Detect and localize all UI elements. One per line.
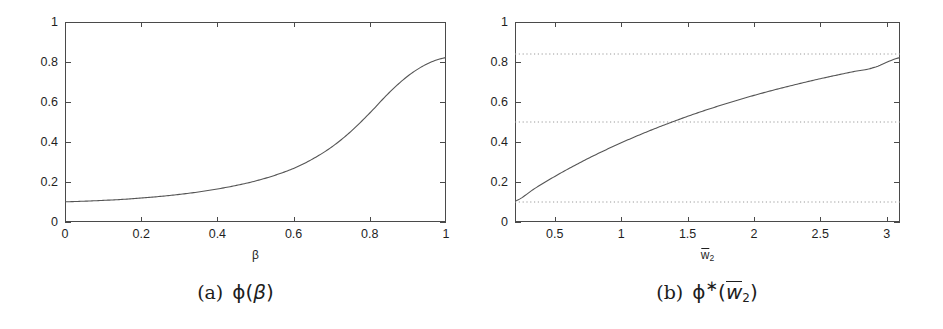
xtick-label-b-3: 2	[751, 227, 758, 241]
panel-a: 0 0.2 0.4 0.6 0.8 1 0 0.2 0.4 0.6 0.8 1 …	[0, 0, 471, 329]
ytick-b-2	[515, 142, 521, 143]
xtick-label-a-0: 0	[62, 227, 69, 241]
ytick-label-a-3: 0.6	[41, 95, 58, 109]
curve-phi-beta	[65, 58, 446, 202]
xtick-b-t3	[754, 22, 755, 27]
xtick-a-2	[217, 217, 218, 222]
xtick-label-a-3: 0.6	[285, 227, 302, 241]
ytick-a-4	[65, 62, 71, 63]
plot-area-b: 0 0.2 0.4 0.6 0.8 1 0.5 1 1.5 2 2.5 3	[515, 22, 900, 222]
xtick-b-0	[555, 217, 556, 222]
curve-phi-star	[515, 58, 900, 202]
curve-svg-a	[65, 22, 446, 222]
ytick-label-a-4: 0.8	[41, 55, 58, 69]
xtick-a-0	[65, 217, 66, 222]
ytick-label-b-4: 0.8	[491, 55, 508, 69]
ytick-label-a-1: 0.2	[41, 175, 58, 189]
ytick-b-0	[515, 222, 521, 223]
xtick-a-t2	[217, 22, 218, 27]
xtick-label-a-2: 0.4	[209, 227, 226, 241]
caption-a: (a)ϕ(β)	[0, 280, 471, 304]
ytick-a-r0	[440, 222, 446, 223]
ytick-label-b-1: 0.2	[491, 175, 508, 189]
xtick-b-t5	[887, 22, 888, 27]
ytick-b-r1	[894, 182, 900, 183]
ytick-a-2	[65, 142, 71, 143]
ytick-a-r2	[440, 142, 446, 143]
ytick-label-b-3: 0.6	[491, 95, 508, 109]
xtick-label-a-4: 0.8	[361, 227, 378, 241]
xtick-label-b-5: 3	[883, 227, 890, 241]
xtick-label-a-5: 1	[443, 227, 450, 241]
x-axis-title-b-base: w	[701, 248, 710, 261]
xtick-label-b-0: 0.5	[546, 227, 563, 241]
xtick-b-t1	[621, 22, 622, 27]
ytick-a-0	[65, 222, 71, 223]
xtick-a-3	[294, 217, 295, 222]
plot-area-a: 0 0.2 0.4 0.6 0.8 1 0 0.2 0.4 0.6 0.8 1 …	[65, 22, 446, 222]
panel-b: 0 0.2 0.4 0.6 0.8 1 0.5 1 1.5 2 2.5 3	[471, 0, 943, 329]
xtick-b-t0	[555, 22, 556, 27]
xtick-b-3	[754, 217, 755, 222]
figure-container: 0 0.2 0.4 0.6 0.8 1 0 0.2 0.4 0.6 0.8 1 …	[0, 0, 943, 329]
xtick-b-t2	[688, 22, 689, 27]
ytick-a-r3	[440, 102, 446, 103]
ytick-label-b-0: 0	[501, 215, 508, 229]
caption-a-body: ϕ(β)	[232, 280, 274, 304]
xtick-b-t4	[820, 22, 821, 27]
gridlines-b	[515, 54, 900, 202]
ytick-label-a-2: 0.4	[41, 135, 58, 149]
ytick-b-3	[515, 102, 521, 103]
xtick-a-t1	[141, 22, 142, 27]
ytick-a-1	[65, 182, 71, 183]
curve-svg-b	[515, 22, 900, 222]
xtick-label-b-1: 1	[618, 227, 625, 241]
caption-a-index: (a)	[197, 281, 223, 303]
ytick-label-a-0: 0	[51, 215, 58, 229]
xtick-label-b-4: 2.5	[812, 227, 829, 241]
ytick-label-b-5: 1	[501, 15, 508, 29]
ytick-label-b-2: 0.4	[491, 135, 508, 149]
xtick-b-1	[621, 217, 622, 222]
xtick-a-1	[141, 217, 142, 222]
ytick-a-3	[65, 102, 71, 103]
ytick-b-r2	[894, 142, 900, 143]
ytick-b-r4	[894, 62, 900, 63]
ytick-a-r1	[440, 182, 446, 183]
caption-b-body: ϕ∗(w2)	[692, 280, 757, 304]
x-axis-title-b: w2	[701, 248, 714, 262]
ytick-label-a-5: 1	[51, 15, 58, 29]
caption-b: (b)ϕ∗(w2)	[471, 280, 943, 304]
xtick-label-b-2: 1.5	[679, 227, 696, 241]
xtick-b-2	[688, 217, 689, 222]
ytick-b-r0	[894, 222, 900, 223]
x-axis-title-b-sub: 2	[709, 253, 714, 263]
xtick-b-4	[820, 217, 821, 222]
xtick-b-5	[887, 217, 888, 222]
xtick-a-4	[370, 217, 371, 222]
xtick-a-t3	[294, 22, 295, 27]
xtick-label-a-1: 0.2	[132, 227, 149, 241]
ytick-a-r4	[440, 62, 446, 63]
xtick-a-t4	[370, 22, 371, 27]
x-axis-title-a: β	[252, 248, 259, 262]
ytick-b-r3	[894, 102, 900, 103]
caption-b-index: (b)	[656, 281, 683, 303]
ytick-b-1	[515, 182, 521, 183]
ytick-b-4	[515, 62, 521, 63]
